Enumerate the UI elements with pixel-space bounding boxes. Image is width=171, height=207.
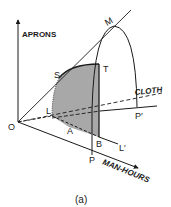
cloth-label: CLOTH [134, 85, 163, 97]
line-l-pprime [100, 106, 157, 111]
point-l-label: L [46, 106, 51, 116]
point-s-label: S [54, 70, 60, 80]
man-hours-label: MAN-HOURS [101, 158, 151, 185]
point-p-label: P [89, 155, 95, 165]
point-b-label: B [96, 139, 102, 149]
point-a-label: A [67, 126, 73, 136]
aprons-label: APRONS [22, 30, 57, 39]
point-t-label: T [103, 64, 109, 74]
point-o-label: O [8, 122, 15, 132]
figure-caption: (a) [75, 194, 87, 205]
point-pprime-label: P′ [135, 111, 143, 121]
point-lprime-label: L′ [119, 143, 126, 153]
production-diagram: APRONS CLOTH MAN-HOURS O M S T L A B P P… [0, 0, 171, 207]
